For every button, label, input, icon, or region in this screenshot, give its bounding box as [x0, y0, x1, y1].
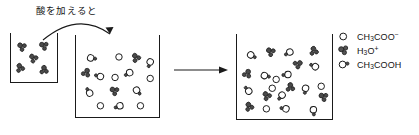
legend-label-hydronium: H3O+ — [357, 45, 379, 56]
particle-cluster — [260, 90, 272, 102]
particle-cluster — [243, 101, 255, 113]
particle-circle-dot — [132, 86, 142, 97]
beaker-left — [10, 33, 58, 83]
particle-circle-dot — [85, 86, 94, 97]
open-circle-icon — [338, 31, 352, 42]
particle-cluster — [16, 42, 27, 52]
legend-item-acetate: CH3COO− — [338, 31, 401, 42]
particle-circle-dot — [113, 102, 123, 110]
beaker-middle — [75, 35, 160, 118]
particle-circle-dot — [246, 50, 257, 61]
figure-canvas: 酸を加えると CH3COO− H3O+ — [0, 0, 419, 135]
legend-label-acetate: CH3COO− — [357, 31, 399, 42]
particle-cluster — [14, 62, 26, 74]
particle-circle — [269, 85, 275, 91]
cluster-icon — [338, 45, 352, 56]
particle-circle-dot — [282, 71, 292, 78]
particle-circle — [318, 83, 324, 89]
legend-label-acetic-acid: CH3COOH — [357, 60, 401, 70]
particle-cluster — [38, 65, 49, 76]
particle-circle-dot — [279, 104, 290, 113]
particle-circle-dot — [300, 84, 309, 95]
particle-circle — [137, 103, 143, 109]
particle-circle-dot — [283, 48, 294, 57]
particle-circle-dot — [123, 68, 134, 77]
beaker-right-contents — [237, 34, 332, 119]
particle-circle-dot — [243, 84, 253, 95]
particle-cluster — [81, 68, 90, 77]
particle-circle-dot — [87, 54, 98, 63]
particle-cluster — [27, 53, 38, 64]
particle-circle-dot — [144, 57, 154, 68]
particle-cluster — [284, 82, 295, 93]
particle-circle — [263, 106, 269, 112]
particle-cluster — [129, 52, 141, 64]
legend-item-hydronium: H3O+ — [338, 45, 401, 56]
particle-circle — [147, 75, 153, 81]
particle-circle-dot — [94, 71, 105, 81]
legend: CH3COO− H3O+ CH3COOH — [338, 31, 401, 70]
particle-circle — [97, 103, 103, 109]
particle-circle-dot — [310, 106, 317, 116]
particle-cluster — [318, 92, 328, 102]
beaker-middle-contents — [76, 35, 159, 117]
particle-circle — [273, 76, 279, 82]
beaker-left-contents — [11, 33, 57, 82]
legend-item-acetic-acid: CH3COOH — [338, 59, 401, 70]
particle-circle-dot — [309, 61, 320, 72]
particle-cluster — [39, 41, 49, 50]
particle-circle — [116, 54, 122, 60]
circle-with-dot-icon — [338, 59, 352, 70]
particle-circle — [112, 74, 118, 80]
particle-cluster — [307, 45, 319, 57]
particle-circle-dot — [275, 91, 286, 102]
particle-cluster — [265, 47, 276, 58]
straight-arrow-icon — [174, 64, 232, 76]
particle-cluster — [242, 69, 251, 78]
particle-cluster — [292, 58, 304, 70]
particle-circle-dot — [260, 71, 271, 81]
particle-cluster — [109, 86, 120, 96]
beaker-right — [236, 34, 333, 120]
